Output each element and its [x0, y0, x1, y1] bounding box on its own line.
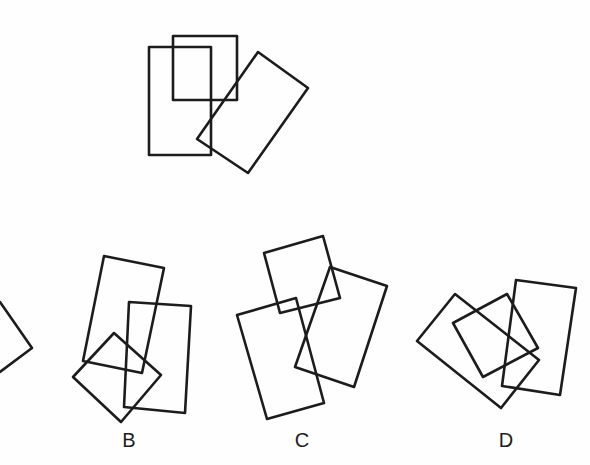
puzzle-drawing: [0, 0, 590, 465]
tilted-tall-rectangle: [83, 256, 164, 373]
option-b-figure[interactable]: [73, 256, 191, 422]
option-a-figure[interactable]: [0, 302, 32, 372]
question-figure: [149, 36, 308, 173]
option-d-label: D: [491, 430, 521, 450]
tall-lower-rectangle: [237, 298, 324, 419]
rotated-rectangle: [197, 52, 308, 173]
puzzle-canvas: B C D: [0, 0, 590, 465]
tilted-right-rectangle: [295, 267, 387, 387]
large-tilted-rectangle: [417, 294, 539, 408]
upright-tilted-rectangle: [502, 280, 576, 395]
option-d-figure[interactable]: [417, 280, 576, 408]
partial-shape: [0, 302, 32, 372]
option-b-label: B: [114, 430, 144, 450]
middle-rectangle: [453, 294, 538, 377]
upper-square-rectangle: [173, 36, 237, 100]
option-c-label: C: [287, 430, 317, 450]
near-upright-rectangle: [124, 302, 191, 413]
option-c-figure[interactable]: [237, 236, 387, 419]
